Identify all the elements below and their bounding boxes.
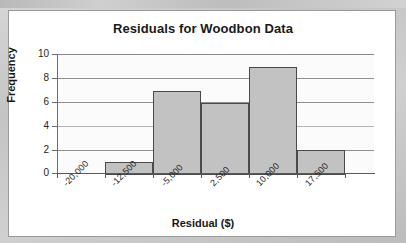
y-axis-tick-label: 10 bbox=[9, 49, 49, 59]
y-tick-label-wrap: 4 bbox=[9, 121, 49, 131]
x-axis-tick-mark bbox=[249, 173, 250, 178]
chart-title: Residuals for Woodbon Data bbox=[9, 21, 397, 36]
x-axis-tick-mark bbox=[57, 173, 58, 178]
y-axis-tick-label: 0 bbox=[9, 168, 49, 178]
histogram-bar bbox=[249, 67, 297, 175]
y-axis-tick-label: 6 bbox=[9, 97, 49, 107]
page-background-band bbox=[0, 0, 406, 8]
y-axis-tick-label: 4 bbox=[9, 121, 49, 131]
plot-area bbox=[58, 54, 374, 174]
y-tick-label-wrap: 0 bbox=[9, 168, 49, 178]
gridline-8 bbox=[58, 78, 374, 79]
x-axis-tick-mark bbox=[201, 173, 202, 178]
screenshot-root: Residuals for Woodbon Data Frequency 10 … bbox=[0, 0, 406, 243]
y-tick-label-wrap: 10 bbox=[9, 49, 49, 59]
chart-panel: Residuals for Woodbon Data Frequency 10 … bbox=[8, 10, 396, 237]
x-axis-title: Residual ($) bbox=[9, 217, 397, 229]
y-tick-label-wrap: 2 bbox=[9, 145, 49, 155]
x-axis-tick-mark bbox=[153, 173, 154, 178]
x-axis-tick-mark bbox=[105, 173, 106, 178]
x-axis-tick-mark bbox=[297, 173, 298, 178]
y-axis-tick-label: 8 bbox=[9, 73, 49, 83]
y-axis-tick-label: 2 bbox=[9, 145, 49, 155]
x-axis-tick-mark bbox=[345, 173, 346, 178]
y-tick-label-wrap: 8 bbox=[9, 73, 49, 83]
y-tick-label-wrap: 6 bbox=[9, 97, 49, 107]
